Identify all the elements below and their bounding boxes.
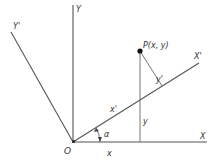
origin-marker — [72, 140, 75, 143]
label-x-coord: x — [106, 149, 112, 158]
rotated-axes-diagram: Y Y' X X' P(x, y) O α x y x' y' — [0, 0, 219, 160]
angle-arrow-head — [98, 137, 102, 142]
label-y-prime-axis: Y' — [13, 22, 20, 31]
label-point-p: P(x, y) — [143, 41, 169, 50]
label-x-axis: X — [199, 132, 206, 141]
label-angle-alpha: α — [104, 130, 110, 139]
label-x-prime-axis: X' — [193, 52, 202, 61]
point-p — [137, 48, 142, 53]
label-origin: O — [64, 146, 71, 156]
label-y-coord: y — [142, 117, 148, 126]
x-prime-axis — [73, 63, 199, 142]
label-y-prime-coord: y' — [155, 75, 163, 84]
label-x-prime-coord: x' — [109, 105, 117, 114]
label-y-axis: Y — [76, 5, 82, 14]
y-prime-axis — [11, 32, 73, 142]
